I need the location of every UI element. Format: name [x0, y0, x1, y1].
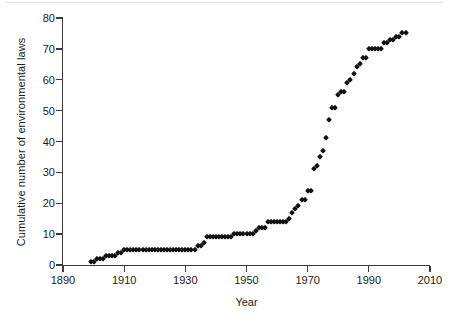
data-point: [323, 135, 329, 141]
data-point: [317, 154, 323, 160]
x-axis-tick: [185, 266, 186, 272]
y-axis-tick: [56, 141, 62, 142]
data-point: [350, 70, 356, 76]
y-axis-tick-label: 10: [25, 228, 55, 240]
y-axis-tick-label: 50: [25, 105, 55, 117]
y-axis-tick-label: 40: [25, 136, 55, 148]
y-axis-tick-label: 70: [25, 43, 55, 55]
y-axis-tick: [56, 264, 62, 265]
data-point: [320, 148, 326, 154]
data-point: [341, 89, 347, 95]
x-axis-tick: [368, 266, 369, 272]
data-point: [326, 117, 332, 123]
x-axis-title: Year: [63, 296, 430, 308]
y-axis-tick-label: 80: [25, 12, 55, 24]
y-axis-tick: [56, 79, 62, 80]
x-axis-tick-label: 1890: [41, 274, 85, 286]
y-axis-tick: [56, 203, 62, 204]
x-axis-tick: [124, 266, 125, 272]
data-point: [301, 197, 307, 203]
data-point: [363, 55, 369, 61]
data-point: [402, 30, 408, 36]
data-point: [378, 46, 384, 52]
x-axis-tick: [429, 266, 430, 272]
chart-figure: Cumulative number of environmental laws …: [0, 0, 449, 323]
y-axis-tick-label: 20: [25, 197, 55, 209]
top-divider-rule: [6, 2, 443, 3]
x-axis-tick: [307, 266, 308, 272]
data-point: [262, 225, 268, 231]
y-axis-tick: [56, 110, 62, 111]
x-axis-tick-label: 1970: [286, 274, 330, 286]
y-axis-tick: [56, 233, 62, 234]
plot-area: [63, 18, 430, 265]
x-axis-tick-label: 2010: [408, 274, 449, 286]
x-axis-tick-label: 1930: [163, 274, 207, 286]
y-axis-tick: [56, 48, 62, 49]
data-point: [308, 188, 314, 194]
y-axis-tick-label: 30: [25, 166, 55, 178]
y-axis-tick-label: 0: [25, 259, 55, 271]
y-axis-tick-label: 60: [25, 74, 55, 86]
x-axis-tick-label: 1990: [347, 274, 391, 286]
x-axis-tick: [246, 266, 247, 272]
x-axis-tick-label: 1910: [102, 274, 146, 286]
x-axis-tick-label: 1950: [225, 274, 269, 286]
y-axis-tick: [56, 172, 62, 173]
data-point: [332, 104, 338, 110]
y-axis-tick: [56, 17, 62, 18]
x-axis-tick: [62, 266, 63, 272]
